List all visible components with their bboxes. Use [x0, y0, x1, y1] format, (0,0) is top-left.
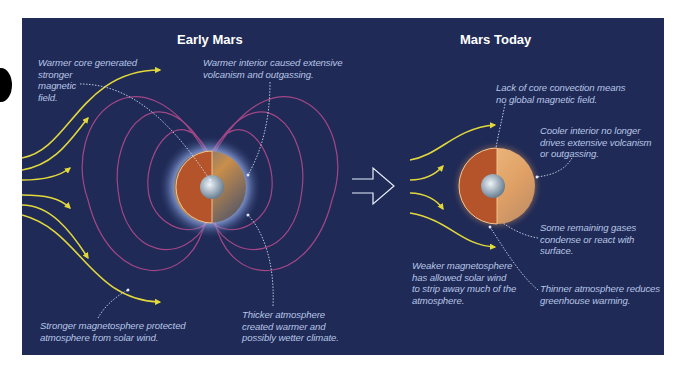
today-gases-note: Some remaining gases condense or react w…: [540, 222, 636, 257]
page-edge-dot: [0, 68, 12, 102]
early-mars-planet: [158, 135, 262, 239]
early-mars-title: Early Mars: [177, 32, 243, 47]
mars-today-planet: [451, 140, 543, 232]
mars-today-title: Mars Today: [460, 32, 531, 47]
today-atmosphere-note: Thinner atmosphere reduces greenhouse wa…: [540, 283, 660, 306]
today-magnetosphere-note: Weaker magnetosphere has allowed solar w…: [412, 260, 516, 306]
mars-comparison-diagram: Early Mars Mars Today Warmer core genera…: [22, 18, 664, 355]
early-atmosphere-note: Thicker atmosphere created warmer and po…: [242, 309, 339, 344]
today-core-note: Lack of core convection means no global …: [496, 82, 625, 105]
early-interior-note: Warmer interior caused extensive volcani…: [203, 57, 343, 80]
solar-wind-arrows-early: [22, 70, 160, 302]
early-core-note: Warmer core generated stronger magnetic …: [38, 57, 137, 103]
early-magnetosphere-note: Stronger magnetosphere protected atmosph…: [40, 320, 186, 343]
transition-arrow-icon: [352, 168, 394, 204]
today-interior-note: Cooler interior no longer drives extensi…: [540, 125, 652, 160]
